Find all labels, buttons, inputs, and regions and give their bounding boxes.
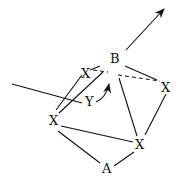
edge-x1-b-dashed — [93, 70, 108, 72]
edge-x3-x1 — [56, 75, 82, 110]
label-a: A — [101, 161, 112, 176]
label-y: Y — [84, 94, 94, 109]
edge-x4-a — [114, 152, 134, 166]
label-x-right: X — [161, 80, 171, 95]
label-x-bottom-right: X — [135, 137, 145, 152]
edge-x1-tick — [90, 66, 100, 70]
label-b: B — [110, 51, 120, 66]
edge-x3-a — [58, 131, 100, 163]
label-x-left: X — [49, 113, 59, 128]
diagram-canvas: B X X Y X X A — [0, 0, 183, 184]
arrow-y-to-b — [96, 84, 109, 102]
arrow-from-b — [126, 9, 164, 50]
edge-x3-x4 — [61, 126, 133, 142]
label-x-top-left: X — [81, 66, 91, 81]
edge-x2-x4 — [145, 94, 166, 135]
edge-b-x4 — [119, 78, 137, 136]
edge-external-y — [12, 84, 82, 103]
